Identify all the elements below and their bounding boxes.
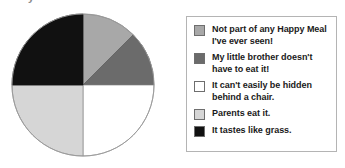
legend-label-not-part-of-happy-meal: Not part of any Happy Meal I've ever see… <box>212 24 327 47</box>
swatch-hidden-behind-chair <box>194 81 205 92</box>
swatch-not-part-of-happy-meal <box>194 25 205 36</box>
pie-slice-hidden-behind-chair <box>83 85 154 156</box>
swatch-little-brother <box>194 53 205 64</box>
legend-item-not-part-of-happy-meal[interactable]: Not part of any Happy Meal I've ever see… <box>194 24 330 47</box>
legend-label-line2: behind a chair. <box>212 92 274 102</box>
legend-label-tastes-like-grass: It tastes like grass. <box>212 125 292 137</box>
legend-label-little-brother: My little brother doesn't have to eat it… <box>212 52 312 75</box>
legend-label-line2: have to eat it! <box>212 64 269 74</box>
legend-item-little-brother[interactable]: My little brother doesn't have to eat it… <box>194 52 330 75</box>
legend-label-line1: Not part of any Happy Meal <box>212 24 327 34</box>
legend-label-line1: It can't easily be hidden <box>212 80 312 90</box>
legend-label-line2: I've ever seen! <box>212 36 273 46</box>
chart-legend: Not part of any Happy Meal I've ever see… <box>186 16 337 152</box>
legend-label-line1: My little brother doesn't <box>212 52 312 62</box>
pie-chart-figure: y Not part of any Happy Meal I've ever s… <box>0 0 345 168</box>
swatch-parents-eat-it <box>194 109 205 120</box>
legend-label-parents-eat-it: Parents eat it. <box>212 108 270 120</box>
pie-chart <box>11 13 155 157</box>
cropped-title-remnant: y <box>28 0 148 3</box>
legend-label-hidden-behind-chair: It can't easily be hidden behind a chair… <box>212 80 312 103</box>
legend-item-hidden-behind-chair[interactable]: It can't easily be hidden behind a chair… <box>194 80 330 103</box>
swatch-tastes-like-grass <box>194 126 205 137</box>
legend-item-tastes-like-grass[interactable]: It tastes like grass. <box>194 125 330 137</box>
pie-slice-parents-eat-it <box>12 85 83 156</box>
legend-item-parents-eat-it[interactable]: Parents eat it. <box>194 108 330 120</box>
pie-slice-tastes-like-grass <box>12 14 83 85</box>
pie-chart-svg <box>11 13 155 157</box>
